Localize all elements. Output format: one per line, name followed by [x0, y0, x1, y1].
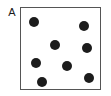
plot-box — [20, 7, 101, 90]
scatter-point-layer — [21, 8, 100, 89]
scatter-point — [31, 58, 41, 68]
scatter-point — [29, 17, 39, 27]
scatter-point — [84, 73, 94, 83]
scatter-point — [82, 43, 92, 53]
scatter-point — [37, 77, 47, 87]
scatter-point — [50, 40, 60, 50]
scatter-point — [62, 61, 72, 71]
scatter-point — [79, 21, 89, 31]
panel-label: A — [5, 5, 19, 19]
figure-root: A — [0, 0, 111, 96]
